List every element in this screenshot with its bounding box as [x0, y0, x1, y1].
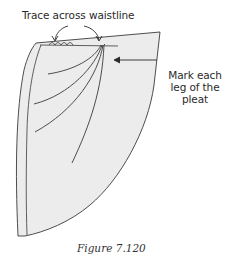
figure-caption: Figure 7.120 [77, 242, 146, 254]
trace-waistline-label: Trace across waistline [22, 9, 134, 21]
mark-pleat-label-line2: leg of the [163, 81, 227, 93]
skirt-panel [16, 32, 160, 236]
mark-pleat-label-line1: Mark each [163, 69, 227, 81]
mark-pleat-label: Mark each leg of the pleat [163, 69, 227, 105]
skirt-pattern-diagram [0, 0, 232, 265]
mark-pleat-label-line3: pleat [163, 93, 227, 105]
